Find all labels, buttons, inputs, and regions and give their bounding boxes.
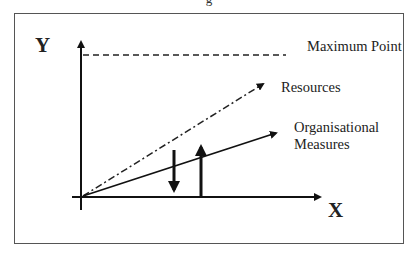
x-axis-label: X xyxy=(328,198,343,223)
y-axis-label: Y xyxy=(35,33,50,58)
organisational-measures-label-line1: Organisational xyxy=(294,119,379,136)
maximum-point-label: Maximum Point xyxy=(307,38,402,55)
organisational-measures-label-line2: Measures xyxy=(294,136,350,153)
resources-label: Resources xyxy=(281,79,341,96)
organisational-measures-line xyxy=(83,133,276,196)
